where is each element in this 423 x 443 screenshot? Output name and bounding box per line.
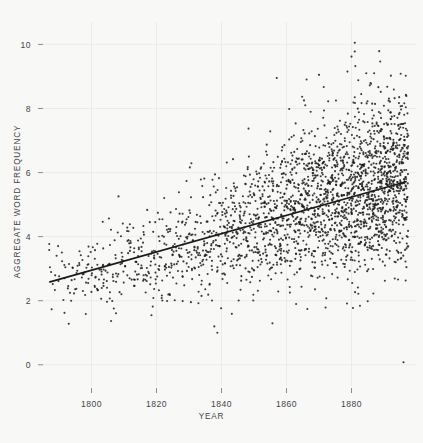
y-tick-label: 8 bbox=[26, 104, 31, 114]
x-tick-label: 1840 bbox=[211, 399, 232, 409]
x-tick-label: 1800 bbox=[81, 399, 102, 409]
x-tick-label: 1880 bbox=[341, 399, 362, 409]
plot-area: 0246810 18001820184018601880 bbox=[0, 0, 423, 443]
y-tick-label: 2 bbox=[26, 296, 31, 306]
scatter-chart: 0246810 18001820184018601880 AGGREGATE W… bbox=[0, 0, 423, 443]
y-tick-label: 0 bbox=[26, 360, 31, 370]
y-tick-label: 6 bbox=[26, 168, 31, 178]
y-tick-label: 4 bbox=[26, 232, 31, 242]
x-tick-label: 1860 bbox=[276, 399, 297, 409]
y-tick-label: 10 bbox=[20, 40, 31, 50]
x-tick-label: 1820 bbox=[146, 399, 167, 409]
